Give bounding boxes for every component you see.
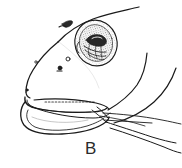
- figure-label: B: [0, 139, 182, 159]
- sensory-pore: [26, 89, 28, 91]
- nostril: [66, 57, 70, 61]
- lower-lip-inner: [27, 110, 104, 130]
- sensory-pore: [35, 61, 37, 63]
- snout: [26, 42, 58, 92]
- opercle: [108, 53, 147, 110]
- snout-tip: [26, 92, 30, 98]
- figure-panel: B: [0, 0, 182, 168]
- sensory-pore: [58, 66, 62, 70]
